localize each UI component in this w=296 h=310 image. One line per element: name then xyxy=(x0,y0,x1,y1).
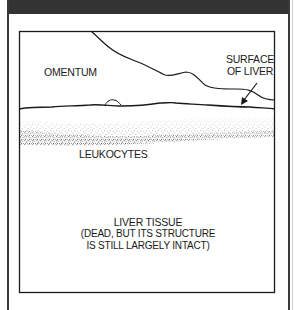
diagram-illustration xyxy=(0,0,296,310)
liver-tissue-label: LIVER TISSUE (DEAD, BUT ITS STRUCTURE IS… xyxy=(0,216,296,252)
omentum-label: OMENTUM xyxy=(44,66,97,78)
leukocytes-label: LEUKOCYTES xyxy=(79,148,148,160)
surface-pointer-arrow xyxy=(241,83,257,105)
liver-tissue-note-line2: IS STILL LARGELY INTACT) xyxy=(0,240,296,252)
liver-tissue-title: LIVER TISSUE xyxy=(0,216,296,228)
surface-of-liver-label: SURFACE OF LIVER xyxy=(218,53,282,77)
liver-surface-line xyxy=(19,103,275,109)
surface-label-line2: OF LIVER xyxy=(218,65,282,77)
surface-bump xyxy=(105,100,121,105)
leukocyte-band xyxy=(19,118,275,146)
liver-tissue-note-line1: (DEAD, BUT ITS STRUCTURE xyxy=(0,228,296,240)
surface-label-line1: SURFACE xyxy=(218,53,282,65)
